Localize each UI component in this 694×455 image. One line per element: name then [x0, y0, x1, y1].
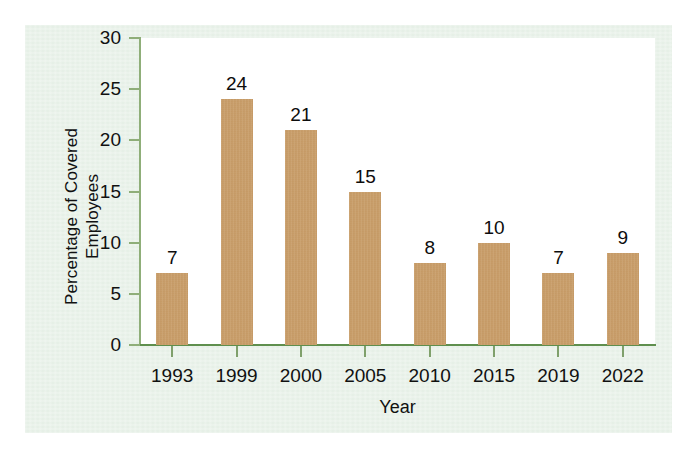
x-axis-title: Year: [140, 397, 655, 418]
bar: [478, 243, 510, 345]
y-axis-tick-label: 10: [100, 232, 121, 254]
bar-value-label: 15: [355, 166, 376, 188]
bar-value-label: 7: [167, 247, 178, 269]
bar: [542, 273, 574, 345]
x-axis-tick: [171, 346, 173, 357]
bar-value-label: 7: [553, 247, 564, 269]
bar-value-label: 24: [226, 73, 247, 95]
bar: [349, 192, 381, 346]
y-axis-tick: [129, 344, 140, 346]
x-axis-tick-label: 2019: [537, 365, 579, 387]
bar-value-label: 9: [618, 227, 629, 249]
x-axis-tick: [557, 346, 559, 357]
bar: [221, 99, 253, 345]
x-axis-tick-label: 2010: [409, 365, 451, 387]
bar-value-label: 21: [290, 104, 311, 126]
y-axis-tick: [129, 293, 140, 295]
y-axis-title: Percentage of Covered Employees: [53, 63, 113, 370]
bar: [607, 253, 639, 345]
y-axis-tick-label: 25: [100, 78, 121, 100]
x-axis-tick-label: 2005: [344, 365, 386, 387]
x-axis-tick-label: 2015: [473, 365, 515, 387]
y-axis-tick: [129, 37, 140, 39]
x-axis-line: [139, 344, 656, 346]
x-axis-tick-label: 1993: [151, 365, 193, 387]
y-axis-tick-label: 0: [110, 334, 121, 356]
plot-area: [140, 38, 655, 345]
x-axis-tick: [493, 346, 495, 357]
x-axis-tick-label: 1999: [215, 365, 257, 387]
y-axis-title-line-1: Percentage of Covered: [62, 128, 83, 305]
chart-panel: Percentage of Covered Employees 05101520…: [25, 25, 672, 433]
x-axis-tick: [364, 346, 366, 357]
y-axis-tick: [129, 191, 140, 193]
y-axis-tick: [129, 88, 140, 90]
x-axis-tick-label: 2000: [280, 365, 322, 387]
y-axis-tick: [129, 139, 140, 141]
y-axis-tick-label: 15: [100, 181, 121, 203]
x-axis-tick: [622, 346, 624, 357]
x-axis-tick: [300, 346, 302, 357]
bar-value-label: 8: [424, 237, 435, 259]
x-axis-tick: [236, 346, 238, 357]
y-axis-tick-label: 20: [100, 129, 121, 151]
y-axis-tick-label: 30: [100, 27, 121, 49]
y-axis-tick: [129, 242, 140, 244]
bar: [285, 130, 317, 345]
x-axis-tick-label: 2022: [602, 365, 644, 387]
x-axis-tick: [429, 346, 431, 357]
bar: [414, 263, 446, 345]
bar: [156, 273, 188, 345]
y-axis-tick-label: 5: [110, 283, 121, 305]
bar-value-label: 10: [483, 217, 504, 239]
